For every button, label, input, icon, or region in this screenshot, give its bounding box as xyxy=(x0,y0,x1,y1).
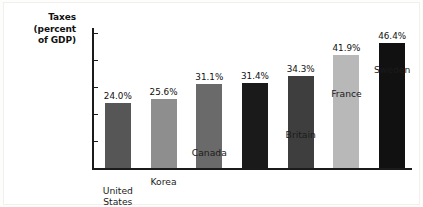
category-label: Britain xyxy=(286,129,316,140)
bar[interactable] xyxy=(379,43,405,168)
bar-value-label: 25.6% xyxy=(150,87,178,97)
plot-area: 50%40302010 24.0%UnitedStates25.6%Korea3… xyxy=(92,28,412,169)
bar-value-label: 31.1% xyxy=(195,72,223,82)
bar-group: 25.6%Korea xyxy=(151,99,177,168)
y-axis-title-line-1: Taxes xyxy=(2,12,76,24)
bar-value-label: 46.4% xyxy=(378,31,406,41)
y-tick-mark xyxy=(92,141,98,142)
category-label-line: States xyxy=(103,196,133,207)
bar[interactable] xyxy=(333,55,359,168)
category-label-line: Sweden xyxy=(374,64,410,75)
bar-group: 24.0%UnitedStates xyxy=(105,103,131,168)
category-label-line: Israel xyxy=(242,145,267,156)
category-label-line: Canada xyxy=(192,147,227,158)
category-label-line: Britain xyxy=(286,129,316,140)
category-label: Israel xyxy=(242,145,267,156)
y-axis-title: Taxes (percent of GDP) xyxy=(2,12,76,47)
bar-value-label: 41.9% xyxy=(332,43,360,53)
bar-group: 31.1%Canada xyxy=(196,84,222,168)
bar-group: 41.9%France xyxy=(333,55,359,168)
bar[interactable] xyxy=(151,99,177,168)
category-label-line: Korea xyxy=(151,176,177,187)
x-axis-line xyxy=(92,168,412,170)
category-label-line: France xyxy=(331,88,362,99)
y-axis-line xyxy=(92,28,94,169)
bar[interactable] xyxy=(288,76,314,168)
category-label: Sweden xyxy=(374,64,410,75)
bar-value-label: 31.4% xyxy=(241,71,269,81)
y-axis-title-line-2: (percent xyxy=(2,24,76,36)
category-label-line: United xyxy=(103,185,133,196)
bar-value-label: 24.0% xyxy=(104,91,132,101)
y-tick-mark xyxy=(92,87,98,88)
y-axis-title-line-3: of GDP) xyxy=(2,35,76,47)
chart-page: Taxes (percent of GDP) 50%40302010 24.0%… xyxy=(0,0,423,207)
y-tick-mark xyxy=(92,114,98,115)
bar-value-label: 34.3% xyxy=(287,64,315,74)
y-tick-mark xyxy=(92,60,98,61)
bar-group: 34.3%Britain xyxy=(288,76,314,168)
bar-group: 31.4%Israel xyxy=(242,83,268,168)
y-tick-mark xyxy=(92,33,98,34)
category-label: UnitedStates xyxy=(103,185,133,207)
bar[interactable] xyxy=(105,103,131,168)
category-label: Canada xyxy=(192,147,227,158)
category-label: France xyxy=(331,88,362,99)
category-label: Korea xyxy=(151,176,177,187)
bar-group: 46.4%Sweden xyxy=(379,43,405,168)
